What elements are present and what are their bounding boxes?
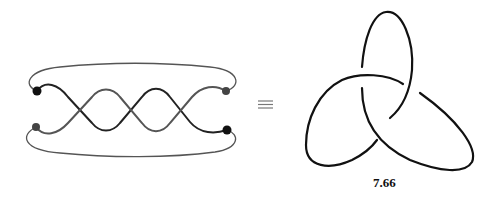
knot-label: 7.66 bbox=[373, 175, 396, 191]
trefoil-knot bbox=[306, 12, 473, 170]
diagram-canvas bbox=[0, 0, 497, 197]
equivalence-icon bbox=[258, 101, 273, 108]
endpoint-bottom-left bbox=[32, 123, 40, 131]
top-closure-arc bbox=[29, 63, 236, 91]
endpoint-bottom-right bbox=[223, 126, 232, 135]
endpoint-top-right bbox=[222, 87, 230, 95]
endpoint-top-left bbox=[33, 87, 42, 96]
